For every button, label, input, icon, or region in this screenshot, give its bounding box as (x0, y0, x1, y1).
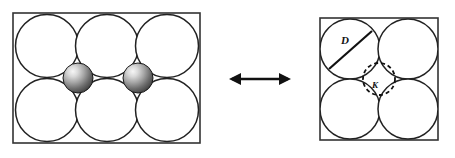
diameter-label: D (340, 34, 349, 46)
figure-canvas: D K (0, 0, 455, 158)
arrow-head-left (229, 73, 241, 85)
interstitial-sphere (123, 63, 153, 93)
large-circle (378, 19, 438, 79)
right-panel-group: D K (320, 18, 438, 140)
interstitial-sphere (63, 63, 93, 93)
packing-comparison-figure: D K (0, 0, 455, 158)
arrow-head-right (279, 73, 291, 85)
equivalence-arrow (229, 73, 291, 85)
left-panel-group (13, 13, 200, 143)
interstitial-label: K (371, 80, 379, 90)
large-circle (378, 79, 438, 139)
